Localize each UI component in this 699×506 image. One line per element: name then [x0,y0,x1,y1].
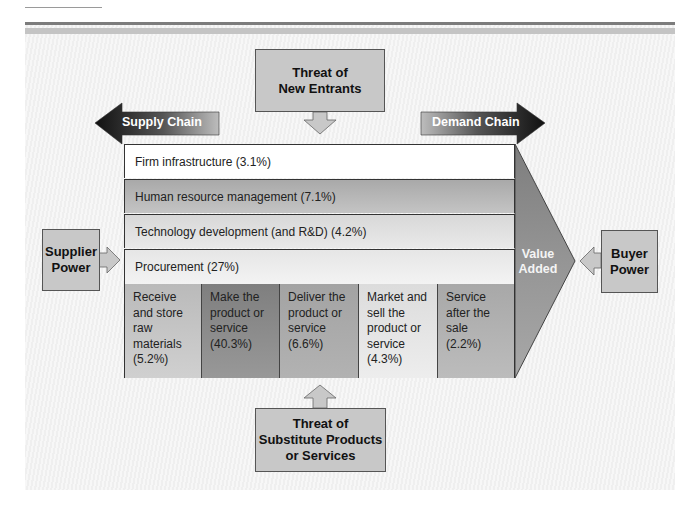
threat-substitutes-line1: Threat of [293,416,349,432]
threat-substitutes-box: Threat of Substitute Products or Service… [255,408,386,472]
primary-activity-label: Make the product or service (40.3%) [210,290,264,351]
value-added-label: Value Added [516,247,560,277]
threat-new-entrants-box: Threat of New Entrants [255,49,385,112]
up-arrow-icon [304,385,336,408]
support-activity-hr-management: Human resource management (7.1%) [124,179,515,213]
down-arrow-icon [304,112,336,134]
primary-activity-make-product: Make the product or service (40.3%) [202,284,280,378]
primary-activity-label: Market and sell the product or service (… [367,290,427,366]
primary-activity-deliver: Deliver the product or service (6.6%) [280,284,359,378]
left-arrow-icon [580,247,601,275]
right-arrow-icon [99,247,120,273]
primary-activity-label: Receive and store raw materials (5.2%) [133,290,183,366]
support-activity-label: Human resource management (7.1%) [135,190,336,204]
value-added-line1: Value [516,247,560,262]
threat-new-entrants-line2: New Entrants [278,81,361,97]
supplier-power-line2: Power [51,260,90,276]
primary-activity-label: Deliver the product or service (6.6%) [288,290,345,351]
buyer-power-line1: Buyer [611,246,648,262]
primary-activity-receive-store: Receive and store raw materials (5.2%) [124,284,202,378]
primary-activity-market-sell: Market and sell the product or service (… [359,284,438,378]
demand-chain-label: Demand Chain [432,115,520,129]
buyer-power-line2: Power [610,262,649,278]
value-added-line2: Added [516,262,560,277]
primary-activity-label: Service after the sale (2.2%) [446,290,490,351]
support-activity-label: Procurement (27%) [135,260,239,274]
supply-chain-label: Supply Chain [122,115,202,129]
threat-substitutes-line2: Substitute Products [259,432,383,448]
buyer-power-box: Buyer Power [601,230,658,293]
supplier-power-box: Supplier Power [42,229,100,291]
support-activity-label: Firm infrastructure (3.1%) [135,155,271,169]
support-activity-technology: Technology development (and R&D) (4.2%) [124,214,515,248]
supplier-power-line1: Supplier [45,244,97,260]
primary-activity-service: Service after the sale (2.2%) [438,284,515,378]
support-activity-label: Technology development (and R&D) (4.2%) [135,225,366,239]
support-activity-procurement: Procurement (27%) [124,249,515,284]
support-activity-firm-infrastructure: Firm infrastructure (3.1%) [124,144,515,178]
threat-new-entrants-line1: Threat of [292,65,348,81]
threat-substitutes-line3: or Services [285,448,355,464]
